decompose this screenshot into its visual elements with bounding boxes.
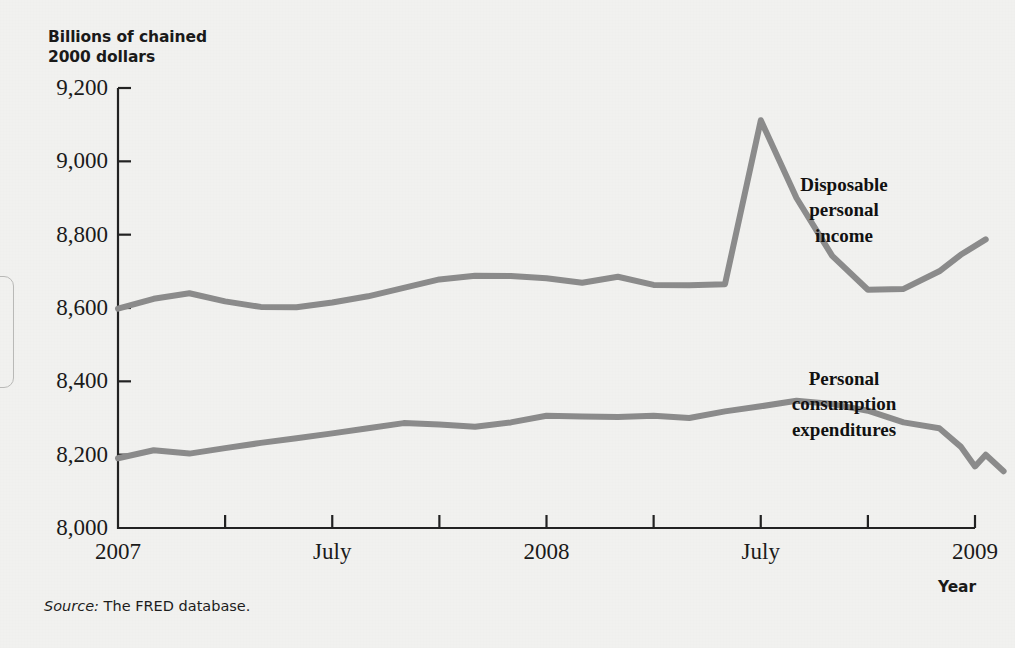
source-note: Source: The FRED database. <box>44 598 250 614</box>
x-tick-label: July <box>313 539 351 565</box>
chart-plot-area <box>0 0 1015 648</box>
x-tick-label: 2008 <box>524 539 570 565</box>
y-tick-label: 8,000 <box>16 515 108 541</box>
axis-lines <box>118 88 975 528</box>
source-keyword: Source: <box>44 598 99 614</box>
x-tick-label: 2007 <box>95 539 141 565</box>
series-label-disposable-personal-income: Disposable personal income <box>746 172 942 248</box>
y-tick-label: 8,600 <box>16 295 108 321</box>
y-tick-label: 9,000 <box>16 148 108 174</box>
x-tick-label: 2009 <box>952 539 998 565</box>
x-axis-title: Year <box>938 578 976 598</box>
y-tick-label: 8,200 <box>16 442 108 468</box>
y-tick-label: 9,200 <box>16 75 108 101</box>
y-tick-label: 8,800 <box>16 222 108 248</box>
y-tick-label: 8,400 <box>16 368 108 394</box>
chart-figure: Billions of chained 2000 dollars 8,0008,… <box>0 0 1015 648</box>
series-label-personal-consumption-expenditures: Personal consumption expenditures <box>744 366 944 442</box>
x-tick-label: July <box>742 539 780 565</box>
source-text: The FRED database. <box>99 598 250 614</box>
x-axis-ticks <box>225 515 975 528</box>
